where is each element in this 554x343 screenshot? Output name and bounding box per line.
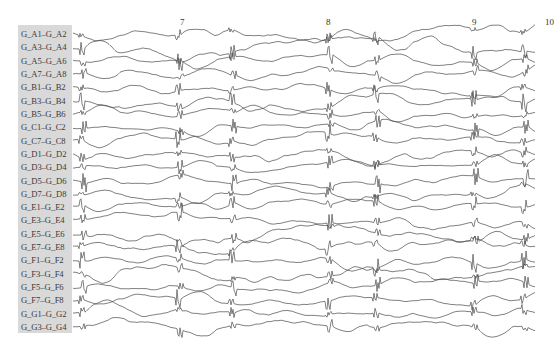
channel-trace xyxy=(73,32,535,64)
channel-label: G_G1–G_G2 xyxy=(21,308,73,320)
channel-label: G_B3–G_B4 xyxy=(21,95,73,107)
time-marker: 8 xyxy=(326,17,331,27)
channel-label: G_F7–G_F8 xyxy=(21,294,73,306)
channel-label: G_D1–G_D2 xyxy=(21,148,73,160)
time-marker: 10 xyxy=(545,17,554,27)
channel-label: G_B5–G_B6 xyxy=(21,108,73,120)
channel-trace xyxy=(73,300,535,318)
channel-trace xyxy=(73,147,535,170)
channel-label: G_F1–G_F2 xyxy=(21,254,73,266)
channel-label: G_E5–G_E6 xyxy=(21,228,73,240)
channel-label: G_C7–G_C8 xyxy=(21,135,73,147)
time-marker: 9 xyxy=(472,17,477,27)
channel-trace xyxy=(73,263,535,283)
channel-trace xyxy=(73,65,535,84)
channel-trace xyxy=(73,25,535,44)
channel-trace xyxy=(73,194,535,213)
channel-label: G_E3–G_E4 xyxy=(21,214,73,226)
channel-trace xyxy=(73,86,535,112)
channel-label: G_B1–G_B2 xyxy=(21,81,73,93)
channel-trace xyxy=(73,203,535,230)
channel-trace xyxy=(73,105,535,122)
channel-trace xyxy=(73,236,535,256)
channel-label: G_G3–G_G4 xyxy=(21,321,73,333)
channel-trace xyxy=(73,125,535,148)
channel-label-panel: G_A1–G_A2G_A3–G_A4G_A5–G_A6G_A7–G_A8G_B1… xyxy=(18,25,72,333)
channel-trace xyxy=(73,318,535,338)
channel-trace xyxy=(73,251,535,276)
channel-trace xyxy=(73,290,535,310)
channel-label: G_D5–G_D6 xyxy=(21,175,73,187)
channel-label: G_A7–G_A8 xyxy=(21,68,73,80)
channel-label: G_D7–G_D8 xyxy=(21,188,73,200)
channel-trace xyxy=(73,82,535,98)
channel-label: G_F3–G_F4 xyxy=(21,268,73,280)
channel-trace xyxy=(73,46,535,71)
channel-label: G_A1–G_A2 xyxy=(21,28,73,40)
channel-trace xyxy=(73,155,535,174)
channel-label: G_E7–G_E8 xyxy=(21,241,73,253)
channel-trace xyxy=(73,182,535,203)
channel-trace xyxy=(73,224,535,247)
channel-label: G_E1–G_E2 xyxy=(21,201,73,213)
channel-trace xyxy=(73,168,535,193)
channel-label: G_A3–G_A4 xyxy=(21,41,73,53)
time-marker: 7 xyxy=(180,17,185,27)
channel-label: G_C1–G_C2 xyxy=(21,121,73,133)
channel-label: G_A5–G_A6 xyxy=(21,55,73,67)
channel-label: G_F5–G_F6 xyxy=(21,281,73,293)
channel-label: G_D3–G_D4 xyxy=(21,161,73,173)
